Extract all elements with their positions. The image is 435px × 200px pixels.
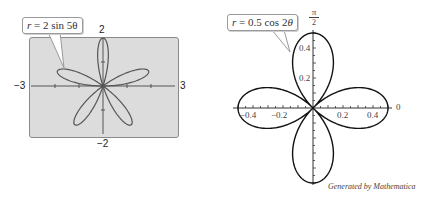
pi-denominator: 2: [309, 18, 319, 27]
y-tick-label-0.2: 0.2: [299, 73, 310, 83]
callout-tail-right: [272, 30, 290, 52]
left-x-min-label: −3: [14, 80, 25, 91]
x-tick-label-0.2: 0.2: [337, 110, 348, 120]
var-theta: θ: [72, 19, 77, 31]
left-x-max-label: 3: [180, 80, 186, 91]
x-tick-label-0.4: 0.4: [367, 110, 378, 120]
equation-callout-right: r = 0.5 cos 2θ: [227, 14, 298, 31]
credit-text: Generated by Mathematica: [328, 182, 416, 191]
left-y-max-label: 2: [99, 24, 105, 35]
angle-label-zero: 0: [396, 102, 401, 112]
callout-tail-left: [48, 32, 64, 68]
y-tick-label-0.4: 0.4: [299, 43, 310, 53]
equation-callout-left: r = 2 sin 5θ: [22, 17, 83, 34]
equation-text: = 0.5 cos 2: [236, 16, 287, 28]
angle-label-half-pi: π 2: [309, 8, 319, 27]
var-theta: θ: [287, 16, 292, 28]
equation-text: = 2 sin 5: [31, 19, 72, 31]
x-tick-label-neg-0.2: −0.2: [271, 110, 287, 120]
x-tick-label-neg-0.4: −0.4: [240, 110, 256, 120]
left-y-min-label: −2: [97, 138, 108, 149]
pi-numerator: π: [309, 8, 319, 18]
